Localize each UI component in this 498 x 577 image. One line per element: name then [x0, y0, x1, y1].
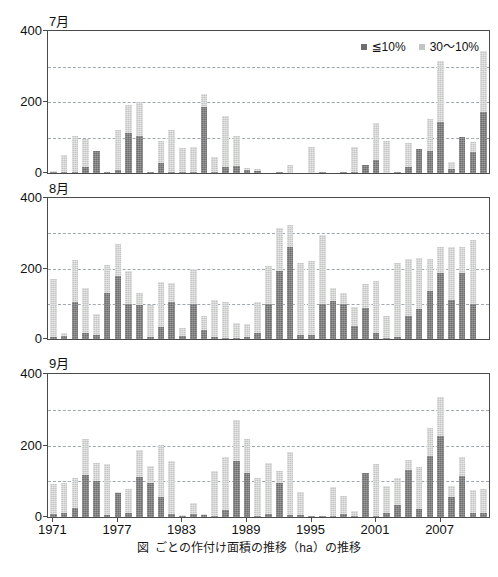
bar-september-2009 — [459, 457, 466, 517]
bar-segment-dark — [201, 330, 208, 339]
bar-segment-dark — [50, 337, 57, 339]
bar-segment-dark — [362, 308, 369, 339]
bar-august-1979 — [136, 293, 143, 339]
bar-segment-dark — [168, 172, 175, 173]
bar-segment-dark — [470, 304, 477, 339]
bar-segment-dark — [340, 304, 347, 339]
bar-september-1983 — [179, 515, 186, 517]
bar-segment-dark — [233, 338, 240, 339]
bar-august-1971 — [50, 279, 57, 339]
bar-segment-dark — [82, 167, 89, 173]
y-tick-mark-400 — [43, 197, 47, 198]
bar-segment-light — [244, 439, 251, 473]
bar-august-1996 — [319, 235, 326, 339]
bar-segment-dark — [158, 327, 165, 339]
bar-segment-dark — [340, 172, 347, 173]
y-tick-mark-400 — [43, 373, 47, 374]
x-tick-label-1977: 1977 — [102, 522, 131, 537]
legend-swatch-icon-light — [419, 44, 425, 50]
bar-segment-light — [201, 94, 208, 107]
bar-segment-dark — [72, 508, 79, 517]
bar-segment-dark — [254, 171, 261, 173]
bar-segment-light — [383, 141, 390, 173]
bar-segment-light — [222, 116, 229, 166]
bar-segment-dark — [362, 165, 369, 173]
bar-segment-light — [287, 452, 294, 515]
bar-segment-light — [125, 489, 132, 513]
bar-segment-dark — [437, 122, 444, 173]
bar-segment-dark — [373, 516, 380, 517]
bar-segment-dark — [351, 516, 358, 517]
bar-september-1997 — [330, 487, 337, 517]
bar-segment-dark — [244, 337, 251, 339]
bar-july-1978 — [125, 105, 132, 173]
bar-segment-dark — [61, 336, 68, 339]
bar-august-2010 — [470, 240, 477, 339]
bar-segment-dark — [265, 304, 272, 339]
bar-segment-light — [211, 300, 218, 337]
bar-segment-light — [427, 428, 434, 456]
bar-july-1973 — [72, 136, 79, 173]
panel-label-july: 7月 — [49, 15, 69, 28]
x-axis: 1971197719831989199520012007 — [47, 518, 490, 540]
y-tick-mark-200 — [43, 445, 47, 446]
bar-july-1977 — [115, 130, 122, 173]
bar-segment-dark — [405, 316, 412, 339]
bar-segment-dark — [276, 172, 283, 173]
bar-september-1982 — [168, 461, 175, 517]
bar-segment-light — [222, 302, 229, 337]
bar-segment-light — [351, 307, 358, 326]
bar-july-1987 — [222, 116, 229, 173]
bar-august-1977 — [115, 244, 122, 339]
bar-august-1988 — [233, 323, 240, 339]
bar-segment-light — [459, 457, 466, 476]
y-tick-label-0: 0 — [0, 510, 42, 523]
bar-july-2002 — [383, 141, 390, 173]
bar-september-2007 — [437, 397, 444, 517]
panel-label-september: 9月 — [49, 357, 69, 370]
bar-segment-light — [61, 483, 68, 513]
bar-segment-light — [190, 269, 197, 304]
bar-july-1999 — [351, 147, 358, 173]
bar-segment-dark — [319, 516, 326, 517]
bar-segment-light — [254, 478, 261, 516]
bar-segment-light — [265, 463, 272, 514]
bar-segment-dark — [373, 333, 380, 339]
bar-july-2009 — [459, 137, 466, 173]
bar-september-2002 — [383, 486, 390, 517]
bar-segment-dark — [319, 304, 326, 339]
bar-segment-dark — [340, 514, 347, 517]
bar-august-2008 — [448, 247, 455, 339]
bar-segment-light — [459, 247, 466, 273]
bar-september-1980 — [147, 466, 154, 517]
bar-july-2000 — [362, 165, 369, 173]
bar-september-2011 — [480, 489, 487, 517]
bar-segment-light — [179, 328, 186, 336]
bar-segment-dark — [319, 172, 326, 173]
y-tick-mark-200 — [43, 101, 47, 102]
bar-segment-light — [61, 155, 68, 173]
bar-segment-dark — [265, 514, 272, 517]
bar-segment-dark — [136, 305, 143, 339]
caption-figure-label: 図 — [137, 541, 149, 555]
bar-august-1990 — [254, 302, 261, 339]
y-tick-label-200: 200 — [0, 95, 42, 108]
bar-segment-dark — [244, 170, 251, 173]
bar-segment-light — [136, 293, 143, 305]
bar-segment-dark — [211, 337, 218, 339]
bar-july-2006 — [427, 119, 434, 173]
y-tick-label-400: 400 — [0, 24, 42, 37]
bar-segment-light — [136, 102, 143, 136]
bar-july-1998 — [340, 172, 347, 173]
bar-september-2010 — [470, 490, 477, 517]
bar-segment-dark — [158, 497, 165, 517]
x-tick-label-2007: 2007 — [425, 522, 454, 537]
bar-september-1976 — [104, 464, 111, 517]
bar-september-1987 — [222, 457, 229, 517]
bar-segment-dark — [104, 515, 111, 517]
bar-segment-dark — [394, 337, 401, 339]
bar-segment-dark — [405, 167, 412, 173]
bar-segment-dark — [61, 172, 68, 173]
bar-segment-dark — [244, 473, 251, 517]
bar-segment-dark — [104, 172, 111, 173]
